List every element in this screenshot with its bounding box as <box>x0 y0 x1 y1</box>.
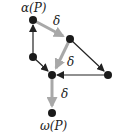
node-omega <box>48 109 56 117</box>
node-n4 <box>48 71 56 79</box>
edge-n2-to-n5 <box>70 39 104 71</box>
label-delta-3: δ <box>61 87 68 101</box>
node-n5 <box>104 71 112 79</box>
label-delta-2: δ <box>67 55 74 69</box>
node-n2 <box>66 35 74 43</box>
label-delta-1: δ <box>53 14 60 28</box>
flow-diagram: α(P) δ δ δ ω(P) <box>0 0 120 134</box>
node-alpha <box>29 16 37 24</box>
label-alpha: α(P) <box>21 1 47 15</box>
node-n3 <box>29 53 37 61</box>
label-omega: ω(P) <box>40 119 68 133</box>
